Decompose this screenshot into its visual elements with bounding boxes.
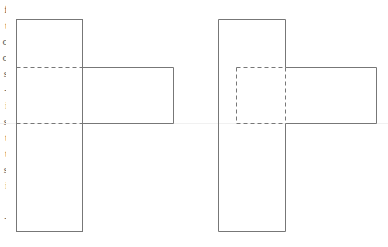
right-net-column-outline: [219, 20, 286, 232]
right-net: [219, 20, 377, 232]
right-net-side-flap: [286, 68, 377, 124]
left-net: [17, 20, 174, 232]
net-diagrams: [0, 0, 388, 247]
left-net-column: [17, 20, 83, 232]
left-net-side-flap: [83, 68, 174, 124]
